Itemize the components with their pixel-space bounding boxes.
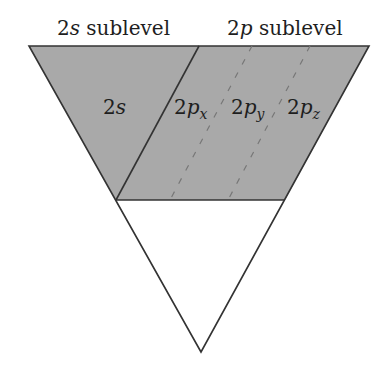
orbital-2px-label: 2px bbox=[174, 97, 207, 117]
shaded-band bbox=[29, 46, 369, 200]
sublevel-triangle-diagram bbox=[0, 0, 390, 379]
2p-sublevel-label: 2p sublevel bbox=[227, 18, 343, 38]
orbital-2pz-label: 2pz bbox=[287, 97, 320, 117]
2s-sublevel-label: 2s sublevel bbox=[57, 18, 170, 38]
orbital-2py-label: 2py bbox=[231, 97, 264, 117]
orbital-2s-label: 2s bbox=[103, 97, 126, 117]
